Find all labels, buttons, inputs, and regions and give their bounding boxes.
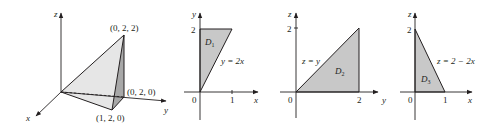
vertex-label-back: (0, 2, 0) bbox=[127, 87, 156, 97]
vertical-tick-label: 2 bbox=[407, 25, 412, 35]
vertex-label-apex: (0, 2, 2) bbox=[110, 23, 139, 33]
curve-label: z = y bbox=[301, 56, 320, 66]
panel-d2: z y 0 2 2 D2 z = y bbox=[280, 9, 386, 118]
vertex-label-front: (1, 2, 0) bbox=[96, 113, 125, 123]
vertical-axis-label: y bbox=[191, 9, 196, 19]
vertical-tick-label: 2 bbox=[191, 25, 196, 35]
diagram-canvas: z y x (0, 2, 2) (0, 2, 0) (1, 2, 0) y x … bbox=[0, 0, 500, 130]
vertical-tick-label: 2 bbox=[287, 24, 292, 34]
y-axis-label: y bbox=[163, 105, 168, 115]
panel-3d-tetrahedron: z y x (0, 2, 2) (0, 2, 0) (1, 2, 0) bbox=[25, 9, 168, 123]
origin-label: 0 bbox=[288, 95, 293, 105]
horizontal-axis-label: x bbox=[467, 95, 472, 105]
horizontal-tick-label: 1 bbox=[230, 95, 235, 105]
z-axis-label: z bbox=[53, 9, 58, 19]
horizontal-axis-label: x bbox=[253, 95, 258, 105]
x-axis bbox=[36, 92, 61, 116]
panel-d3: z x 0 2 1 D3 z = 2 − 2x bbox=[400, 9, 475, 120]
horizontal-tick-label: 2 bbox=[357, 95, 362, 105]
horizontal-tick-label: 1 bbox=[443, 95, 448, 105]
x-axis-label: x bbox=[25, 113, 30, 123]
vertical-axis-label: z bbox=[287, 9, 292, 19]
horizontal-axis-label: y bbox=[381, 95, 386, 105]
curve-label: z = 2 − 2x bbox=[436, 56, 475, 66]
origin-label: 0 bbox=[192, 95, 197, 105]
origin-label: 0 bbox=[408, 95, 413, 105]
curve-label: y = 2x bbox=[220, 56, 244, 66]
panel-d1: y x 0 2 1 D1 y = 2x bbox=[184, 9, 258, 120]
vertical-axis-label: z bbox=[407, 9, 412, 19]
